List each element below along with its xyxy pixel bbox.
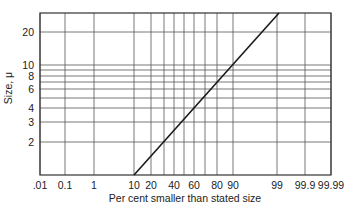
y-tick-label: 6 — [28, 83, 34, 95]
x-tick-label: 99.99 — [318, 179, 344, 191]
x-axis-label: Per cent smaller than stated size — [109, 192, 261, 204]
x-tick-label: 80 — [211, 179, 223, 191]
x-tick-label: 10 — [128, 179, 140, 191]
x-tick-label: 1 — [91, 179, 97, 191]
y-tick-label: 2 — [28, 136, 34, 148]
horizontal-gridlines — [40, 32, 331, 142]
x-tick-label: 60 — [188, 179, 200, 191]
x-tick-labels: .010.111020406080909999.999.99 — [33, 179, 345, 191]
vertical-gridlines — [40, 13, 331, 175]
x-tick-label: 99.9 — [295, 179, 316, 191]
x-tick-label: 0.1 — [58, 179, 73, 191]
x-tick-label: 20 — [145, 179, 157, 191]
y-tick-label: 4 — [28, 102, 34, 114]
x-tick-label: 99 — [271, 179, 283, 191]
y-tick-label: 8 — [28, 70, 34, 82]
x-tick-label: .01 — [33, 179, 48, 191]
y-axis-label: Size, μ — [2, 72, 14, 104]
x-tick-label: 40 — [168, 179, 180, 191]
y-tick-labels: 201086432 — [22, 26, 34, 148]
y-tick-label: 3 — [28, 116, 34, 128]
probability-chart: .010.111020406080909999.999.99 201086432… — [0, 0, 357, 214]
y-tick-label: 20 — [22, 26, 34, 38]
plot-frame — [40, 13, 331, 175]
data-series — [134, 13, 279, 175]
x-tick-label: 90 — [227, 179, 239, 191]
series-line — [134, 13, 279, 175]
